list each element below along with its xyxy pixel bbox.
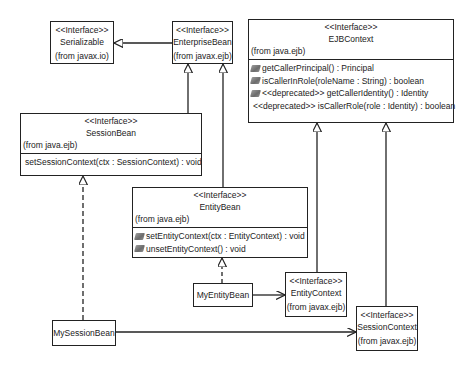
stereotype-label: <<Interface>>: [133, 188, 307, 202]
entitycontext-interface[interactable]: <<Interface>> EntityContext (from javax.…: [285, 272, 347, 317]
operation[interactable]: setSessionContext(ctx : SessionContext) …: [23, 156, 199, 169]
stereotype-label: <<Interface>>: [21, 114, 201, 128]
package-label: (from java.ejb): [133, 213, 307, 227]
stereotype-label: <<Interface>>: [357, 309, 417, 321]
interface-name: EJBContext: [249, 34, 453, 46]
operation[interactable]: getCallerPrincipal() : Principal: [251, 62, 451, 75]
interface-name: EntityBean: [133, 202, 307, 214]
package-label: (from javax.ejb): [173, 50, 232, 62]
class-name: MySessionBean: [53, 328, 114, 338]
entitybean-interface[interactable]: <<Interface>> EntityBean (from java.ejb)…: [132, 187, 308, 258]
operation-icon: [250, 90, 261, 97]
stereotype-label: <<Interface>>: [286, 275, 346, 287]
package-label: (from javax.ejb): [357, 335, 417, 347]
operation-icon: [250, 65, 261, 72]
operation[interactable]: setEntityContext(ctx : EntityContext) : …: [135, 230, 305, 243]
operation-icon: [250, 77, 261, 84]
operation[interactable]: unsetEntityContext() : void: [135, 243, 305, 256]
operations-compartment: setSessionContext(ctx : SessionContext) …: [21, 153, 201, 171]
package-label: (from javax.ejb): [286, 301, 346, 313]
operation[interactable]: isCallerInRole(roleName : String) : bool…: [251, 75, 451, 88]
interface-name: EnterpriseBean: [173, 36, 232, 48]
stereotype-label: <<Interface>>: [249, 20, 453, 34]
operation-icon: [22, 159, 24, 166]
stereotype-label: <<Interface>>: [173, 24, 232, 36]
operations-compartment: getCallerPrincipal() : Principal isCalle…: [249, 59, 453, 114]
operation[interactable]: <<deprecated>> getCallerIdentity() : Ide…: [251, 87, 451, 100]
package-label: (from java.ejb): [249, 45, 453, 59]
sessioncontext-interface[interactable]: <<Interface>> SessionContext (from javax…: [356, 306, 418, 351]
interface-name: EntityContext: [286, 287, 346, 299]
package-label: (from java.ejb): [21, 139, 201, 153]
sessionbean-interface[interactable]: <<Interface>> SessionBean (from java.ejb…: [20, 113, 202, 176]
interface-name: SessionContext: [357, 321, 417, 333]
enterprisebean-interface[interactable]: <<Interface>> EnterpriseBean (from javax…: [172, 21, 233, 64]
class-name: MyEntityBean: [197, 290, 249, 300]
operation-icon: [134, 233, 145, 240]
mysessionbean-class[interactable]: MySessionBean: [52, 320, 116, 346]
operation-icon: [134, 245, 145, 252]
serializable-interface[interactable]: <<Interface>> Serializable (from javax.i…: [50, 21, 114, 64]
package-label: (from javax.io): [51, 50, 113, 62]
interface-name: Serializable: [51, 36, 113, 48]
operation[interactable]: <<deprecated>> isCallerRole(role : Ident…: [251, 100, 451, 113]
operation-icon: [250, 102, 252, 109]
interface-name: SessionBean: [21, 128, 201, 140]
operations-compartment: setEntityContext(ctx : EntityContext) : …: [133, 227, 307, 257]
stereotype-label: <<Interface>>: [51, 24, 113, 36]
ejbcontext-interface[interactable]: <<Interface>> EJBContext (from java.ejb)…: [248, 19, 454, 123]
myentitybean-class[interactable]: MyEntityBean: [193, 283, 253, 307]
